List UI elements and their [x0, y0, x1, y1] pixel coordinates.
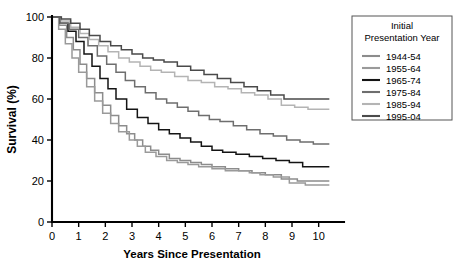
y-tick-label: 20: [32, 175, 44, 187]
survival-chart: 020406080100012345678910Years Since Pres…: [0, 0, 458, 280]
y-tick-label: 60: [32, 93, 44, 105]
y-tick-label: 100: [26, 11, 44, 23]
x-tick-label: 2: [102, 230, 108, 242]
x-tick-label: 4: [156, 230, 162, 242]
x-axis-title: Years Since Presentation: [123, 248, 260, 260]
y-axis-title: Survival (%): [5, 85, 19, 154]
x-tick-label: 7: [236, 230, 242, 242]
y-tick-label: 80: [32, 52, 44, 64]
curve-1985-94: [52, 17, 329, 109]
x-tick-label: 1: [76, 230, 82, 242]
x-tick-label: 5: [182, 230, 188, 242]
legend-label-1995-04: 1995-04: [386, 111, 421, 122]
chart-figure: 020406080100012345678910Years Since Pres…: [0, 0, 458, 280]
x-tick-label: 10: [313, 230, 325, 242]
legend-title-line2: Presentation Year: [364, 32, 439, 43]
x-tick-label: 9: [289, 230, 295, 242]
legend-label-1955-64: 1955-64: [386, 63, 421, 74]
y-tick-label: 40: [32, 134, 44, 146]
curve-group: [52, 17, 329, 185]
legend-label-1975-84: 1975-84: [386, 87, 421, 98]
x-tick-label: 6: [209, 230, 215, 242]
x-tick-label: 3: [129, 230, 135, 242]
legend-title-line1: Initial: [391, 20, 413, 31]
legend-label-1965-74: 1965-74: [386, 75, 421, 86]
axis-lines: [52, 16, 344, 222]
x-tick-label: 0: [49, 230, 55, 242]
x-tick-label: 8: [262, 230, 268, 242]
legend: InitialPresentation Year1944-541955-6419…: [352, 16, 452, 122]
y-tick-label: 0: [38, 216, 44, 228]
legend-label-1944-54: 1944-54: [386, 51, 421, 62]
legend-label-1985-94: 1985-94: [386, 99, 421, 110]
